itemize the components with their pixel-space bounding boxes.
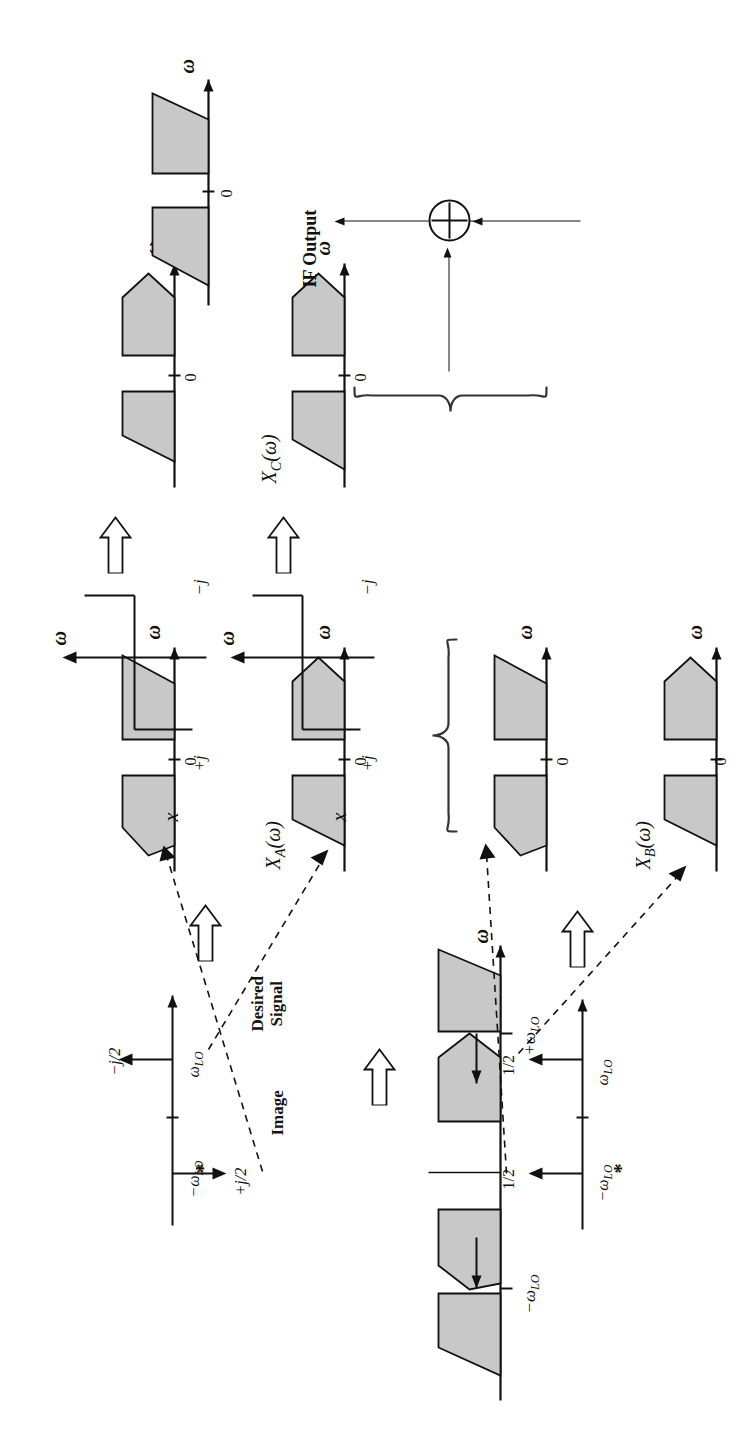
zero-tick-label-xb-upper: 0	[554, 757, 570, 765]
zero-tick-label-xc-upper: 0	[182, 373, 198, 381]
axis-label-omega-if-output: ω	[176, 59, 196, 73]
derivation-arrow-input-to-mix	[362, 1047, 396, 1105]
multiply-operator-upper: x	[160, 812, 180, 821]
if-output-label: IF Output	[300, 209, 318, 287]
hilbert-level-minus-j-lower: −j	[358, 579, 375, 595]
multiply-operator-lower: x	[328, 812, 348, 821]
minus-omega-lo-text: −ω	[519, 1290, 538, 1313]
tick-label-minus-omega-lo-input: −ωLO	[520, 1274, 541, 1313]
derivation-arrow-to-xc-upper	[98, 515, 132, 573]
hilbert-level-plus-j-lower: +j	[358, 755, 375, 771]
brace-xb-pair	[420, 635, 468, 835]
sum-output-arrowhead	[334, 218, 344, 226]
brace-xc-pair	[350, 375, 550, 423]
figure-page: ω −ωLO +ωLO Desired Signal Image * *	[0, 0, 736, 1435]
axis-label-omega-hilbert-upper: ω	[48, 631, 68, 645]
derivation-arrow-to-xc-lower	[266, 515, 300, 573]
axis-label-omega-hilbert-lower: ω	[216, 631, 236, 645]
dashed-pointer-half-right-to-xb	[500, 841, 690, 1061]
zero-tick-label-if-output: 0	[218, 189, 234, 197]
hilbert-level-plus-j-upper: +j	[190, 755, 207, 771]
hilbert-level-minus-j-upper: −j	[190, 579, 207, 595]
axis-label-omega-xb-lower: ω	[684, 625, 704, 639]
zero-tick-label-xb-lower: 0	[712, 757, 728, 765]
axis-label-omega-xb-upper: ω	[514, 625, 534, 639]
sum-output-line	[338, 220, 428, 221]
omega-lo-subscript: LO	[527, 1274, 541, 1290]
sum-input-arrowhead-horizontal	[443, 247, 451, 257]
dashed-pointer-minus-j-half-to-xa	[186, 827, 346, 1057]
sum-input-line-horizontal	[448, 255, 449, 371]
weight-label-minus-j-half: −j/2	[106, 1047, 122, 1075]
diagram-canvas: ω −ωLO +ωLO Desired Signal Image * *	[0, 0, 736, 1435]
if-output-spectrum	[78, 65, 278, 315]
summing-junction	[424, 195, 474, 245]
